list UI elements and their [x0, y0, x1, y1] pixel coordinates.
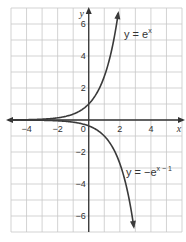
x-tick-label: 2: [117, 124, 122, 134]
y-tick-label: −2: [75, 147, 85, 157]
equation-label-2: y = −ex − 1: [126, 165, 172, 178]
origin-label: 0: [81, 124, 86, 134]
x-axis-label: x: [176, 123, 182, 134]
y-tick-label: −4: [75, 179, 85, 189]
y-axis-label: y: [79, 8, 85, 19]
y-tick-label: 6: [81, 19, 86, 29]
x-tick-label: −2: [53, 124, 63, 134]
x-tick-label: −4: [21, 124, 31, 134]
x-tick-label: 4: [148, 124, 153, 134]
exponential-graph: −4−224642−2−4−60xyy = exy = −ex − 1: [0, 0, 186, 242]
y-tick-label: 4: [81, 51, 86, 61]
y-tick-label: −6: [75, 211, 85, 221]
equation-label-1: y = ex: [124, 27, 152, 40]
y-tick-label: 2: [81, 83, 86, 93]
